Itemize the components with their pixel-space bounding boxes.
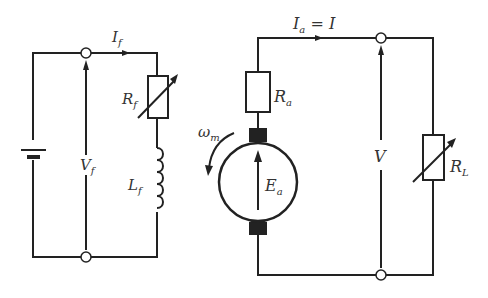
inductor-icon	[157, 148, 163, 208]
current-arrow-icon	[315, 35, 323, 41]
current-arrow-icon	[122, 50, 130, 56]
wire	[86, 53, 157, 75]
field-circuit: If Vf Rf Lf	[21, 28, 178, 262]
field-inductor-label: Lf	[127, 176, 144, 196]
terminal-voltage-label: V	[374, 147, 387, 166]
armature-circuit: Ia = I Ra Ea ωm V RL	[198, 14, 469, 280]
wire	[86, 212, 157, 257]
arrow-head-icon	[205, 165, 213, 176]
speed-label: ωm	[198, 123, 220, 143]
circuit-diagram: If Vf Rf Lf	[0, 0, 488, 298]
armature-resistor-label: Ra	[273, 87, 292, 108]
wire	[258, 38, 381, 72]
load-resistor-label: RL	[449, 157, 469, 178]
arrow-head-icon	[378, 45, 384, 55]
field-resistor-label: Rf	[121, 90, 139, 110]
arrow-head-icon	[83, 60, 89, 70]
wire	[258, 234, 381, 275]
terminal-node	[81, 252, 91, 262]
field-voltage-label: Vf	[80, 156, 97, 176]
terminal-node	[376, 270, 386, 280]
wire	[381, 180, 433, 275]
variable-resistor-icon	[138, 74, 178, 118]
brush-icon	[249, 128, 267, 142]
wire	[33, 53, 86, 140]
brush-icon	[249, 222, 267, 235]
wire	[381, 38, 433, 135]
armature-current-label: Ia = I	[292, 14, 336, 35]
battery-icon	[21, 150, 46, 157]
wire	[33, 160, 86, 257]
terminal-node	[81, 48, 91, 58]
field-current-label: If	[111, 28, 124, 48]
terminal-node	[376, 33, 386, 43]
armature-resistor-icon	[246, 72, 270, 112]
